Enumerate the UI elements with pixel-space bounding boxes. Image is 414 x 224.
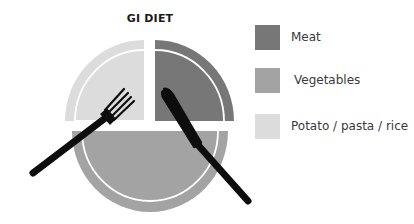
legend-label: Vegetables: [294, 73, 360, 87]
gi-diet-plate-diagram: [0, 0, 414, 224]
vegetables-section: [72, 131, 228, 212]
meat-section: [155, 40, 234, 121]
legend-item-potato-pasta-rice: Potato / pasta / rice: [255, 113, 280, 139]
potato-pasta-rice-section: [65, 40, 144, 121]
meat-swatch: [255, 25, 280, 50]
legend-label: Potato / pasta / rice: [291, 119, 408, 133]
potato-pasta-rice-swatch: [255, 114, 280, 139]
legend-item-meat: Meat: [255, 24, 280, 50]
legend-item-vegetables: Vegetables: [255, 67, 280, 93]
diagram-title: GI DIET: [100, 12, 200, 25]
vegetables-swatch: [255, 68, 280, 93]
legend-label: Meat: [291, 30, 321, 44]
